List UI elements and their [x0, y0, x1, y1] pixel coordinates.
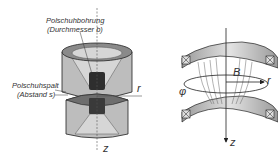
gap-label-line1: Polschuhspalt [12, 81, 60, 90]
pole-piece-diagram: Polschuhbohrung (Durchmesser b) Polschuh… [0, 0, 278, 164]
left-r-axis-label: r [137, 82, 142, 94]
lower-ring [182, 96, 278, 122]
right-field-figure [182, 28, 278, 142]
right-r-axis-label: r [267, 74, 272, 86]
gap-label-line2: (Abstand s) [17, 90, 56, 99]
bore-label-line2: (Durchmesser b) [47, 25, 103, 34]
bore-label-line1: Polschuhbohrung [46, 16, 105, 25]
left-z-axis-label: z [102, 142, 109, 154]
phi-axis-label: φ [179, 85, 186, 97]
field-b-label: B [233, 66, 240, 78]
right-z-axis-label: z [229, 136, 236, 148]
upper-ring [182, 42, 278, 68]
